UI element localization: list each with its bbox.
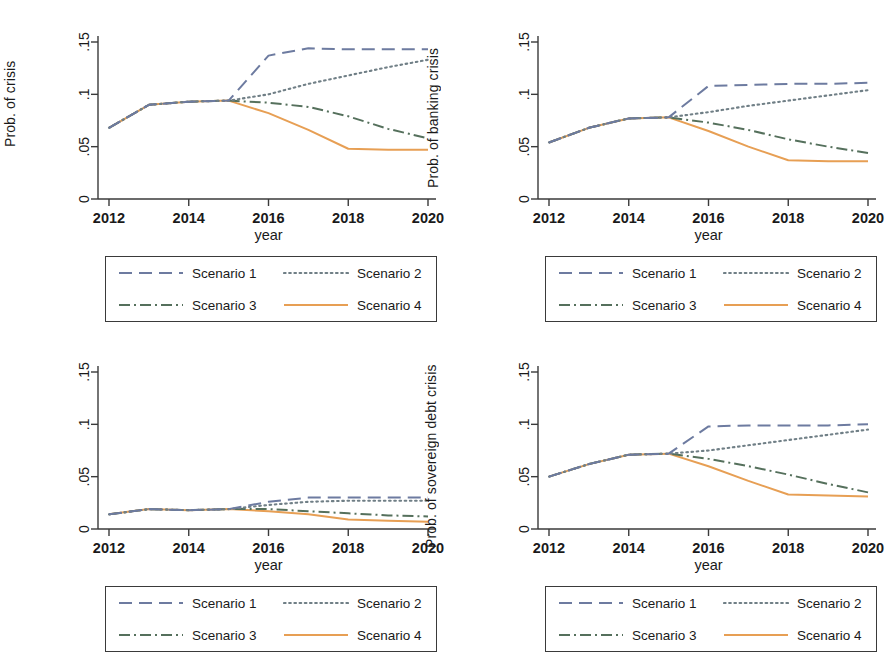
x-tick-label: 2016 bbox=[252, 540, 284, 556]
legend-swatch-scenario4 bbox=[283, 300, 349, 310]
legend-swatch-scenario4 bbox=[723, 630, 789, 640]
legend-item-scenario3: Scenario 3 bbox=[546, 619, 711, 651]
series-line-scenario-4 bbox=[549, 117, 868, 161]
y-axis-label-prob-of-banking-crisis: Prob. of banking crisis bbox=[425, 30, 441, 205]
plot-area-bottom-left: 0.05.1.1520122014201620182020year bbox=[0, 330, 446, 580]
plot-area-bottom-right: 0.05.1.1520122014201620182020year bbox=[440, 330, 886, 580]
series-line-scenario-2 bbox=[109, 60, 428, 128]
x-tick-label: 2020 bbox=[852, 210, 884, 226]
legend-item-scenario1: Scenario 1 bbox=[546, 257, 711, 289]
legend: Scenario 1Scenario 2Scenario 3Scenario 4 bbox=[105, 586, 437, 652]
y-tick-label: .15 bbox=[516, 32, 532, 52]
legend-label-scenario4: Scenario 4 bbox=[357, 298, 422, 313]
legend-swatch-scenario1 bbox=[118, 598, 184, 608]
legend-item-scenario1: Scenario 1 bbox=[546, 587, 711, 619]
legend: Scenario 1Scenario 2Scenario 3Scenario 4 bbox=[545, 256, 877, 322]
x-tick-label: 2014 bbox=[173, 540, 205, 556]
legend: Scenario 1Scenario 2Scenario 3Scenario 4 bbox=[545, 586, 877, 652]
series-line-scenario-4 bbox=[109, 101, 428, 150]
legend-item-scenario2: Scenario 2 bbox=[711, 257, 876, 289]
legend-item-scenario2: Scenario 2 bbox=[271, 587, 436, 619]
x-tick-label: 2018 bbox=[332, 540, 364, 556]
series-line-scenario-3 bbox=[549, 454, 868, 493]
legend-label-scenario1: Scenario 1 bbox=[632, 596, 697, 611]
legend-label-scenario2: Scenario 2 bbox=[797, 266, 862, 281]
x-tick-label: 2012 bbox=[93, 210, 125, 226]
legend-swatch-scenario2 bbox=[723, 268, 789, 278]
legend-swatch-scenario4 bbox=[723, 300, 789, 310]
legend-swatch-scenario2 bbox=[283, 268, 349, 278]
legend-label-scenario4: Scenario 4 bbox=[797, 298, 862, 313]
legend-label-scenario4: Scenario 4 bbox=[797, 628, 862, 643]
series-line-scenario-3 bbox=[109, 101, 428, 139]
y-tick-label: .1 bbox=[516, 418, 532, 430]
legend-label-scenario2: Scenario 2 bbox=[357, 266, 422, 281]
y-tick-label: 0 bbox=[76, 525, 92, 533]
legend-label-scenario3: Scenario 3 bbox=[192, 628, 257, 643]
legend-item-scenario2: Scenario 2 bbox=[711, 587, 876, 619]
x-tick-label: 2014 bbox=[613, 210, 645, 226]
y-tick-label: .1 bbox=[76, 88, 92, 100]
x-tick-label: 2020 bbox=[852, 540, 884, 556]
x-axis-title: year bbox=[254, 227, 282, 243]
y-tick-label: .1 bbox=[516, 88, 532, 100]
legend-grid: Scenario 1Scenario 2Scenario 3Scenario 4 bbox=[546, 587, 876, 651]
x-tick-label: 2014 bbox=[173, 210, 205, 226]
x-axis-title: year bbox=[694, 557, 722, 573]
x-tick-label: 2018 bbox=[332, 210, 364, 226]
x-tick-label: 2014 bbox=[613, 540, 645, 556]
legend-item-scenario4: Scenario 4 bbox=[711, 289, 876, 321]
x-axis-title: year bbox=[254, 557, 282, 573]
x-tick-label: 2016 bbox=[692, 540, 724, 556]
panel-bottom-left: 0.05.1.1520122014201620182020year Scenar… bbox=[0, 330, 446, 654]
x-tick-label: 2012 bbox=[533, 540, 565, 556]
legend-item-scenario1: Scenario 1 bbox=[106, 257, 271, 289]
legend-label-scenario1: Scenario 1 bbox=[632, 266, 697, 281]
y-tick-label: 0 bbox=[516, 525, 532, 533]
legend-item-scenario4: Scenario 4 bbox=[271, 619, 436, 651]
x-tick-label: 2012 bbox=[533, 210, 565, 226]
legend-item-scenario4: Scenario 4 bbox=[711, 619, 876, 651]
y-tick-label: .15 bbox=[76, 32, 92, 52]
plot-area-top-left: 0.05.1.1520122014201620182020year bbox=[0, 0, 446, 250]
legend-label-scenario3: Scenario 3 bbox=[632, 298, 697, 313]
legend-swatch-scenario3 bbox=[558, 300, 624, 310]
legend-swatch-scenario1 bbox=[558, 598, 624, 608]
legend-swatch-scenario3 bbox=[558, 630, 624, 640]
y-tick-label: 0 bbox=[516, 195, 532, 203]
legend-grid: Scenario 1Scenario 2Scenario 3Scenario 4 bbox=[106, 587, 436, 651]
plot-area-top-right: 0.05.1.1520122014201620182020year bbox=[440, 0, 886, 250]
legend-grid: Scenario 1Scenario 2Scenario 3Scenario 4 bbox=[546, 257, 876, 321]
panel-bottom-right: 0.05.1.1520122014201620182020year Scenar… bbox=[440, 330, 886, 654]
y-tick-label: .1 bbox=[76, 418, 92, 430]
legend: Scenario 1Scenario 2Scenario 3Scenario 4 bbox=[105, 256, 437, 322]
y-tick-label: .15 bbox=[76, 362, 92, 382]
legend-item-scenario1: Scenario 1 bbox=[106, 587, 271, 619]
legend-label-scenario1: Scenario 1 bbox=[192, 266, 257, 281]
series-line-scenario-2 bbox=[549, 90, 868, 142]
y-tick-label: .05 bbox=[516, 467, 532, 487]
legend-swatch-scenario4 bbox=[283, 630, 349, 640]
series-line-scenario-2 bbox=[549, 430, 868, 477]
series-line-scenario-4 bbox=[549, 454, 868, 497]
x-tick-label: 2016 bbox=[692, 210, 724, 226]
legend-label-scenario3: Scenario 3 bbox=[632, 628, 697, 643]
y-tick-label: .05 bbox=[516, 137, 532, 157]
panel-top-right: 0.05.1.1520122014201620182020year Scenar… bbox=[440, 0, 886, 324]
legend-swatch-scenario3 bbox=[118, 300, 184, 310]
series-line-scenario-3 bbox=[549, 117, 868, 153]
legend-item-scenario2: Scenario 2 bbox=[271, 257, 436, 289]
series-line-scenario-4 bbox=[109, 509, 428, 522]
y-tick-label: 0 bbox=[76, 195, 92, 203]
y-tick-label: .15 bbox=[516, 362, 532, 382]
legend-swatch-scenario3 bbox=[118, 630, 184, 640]
x-tick-label: 2016 bbox=[252, 210, 284, 226]
legend-label-scenario2: Scenario 2 bbox=[357, 596, 422, 611]
y-tick-label: .05 bbox=[76, 137, 92, 157]
legend-item-scenario4: Scenario 4 bbox=[271, 289, 436, 321]
legend-label-scenario1: Scenario 1 bbox=[192, 596, 257, 611]
panel-top-left: Prob. of crisis 0.05.1.15201220142016201… bbox=[0, 0, 446, 324]
legend-item-scenario3: Scenario 3 bbox=[546, 289, 711, 321]
y-axis-label-prob-of-sovereign-debt-crisis: Prob. of sovereign debt crisis bbox=[423, 336, 439, 576]
